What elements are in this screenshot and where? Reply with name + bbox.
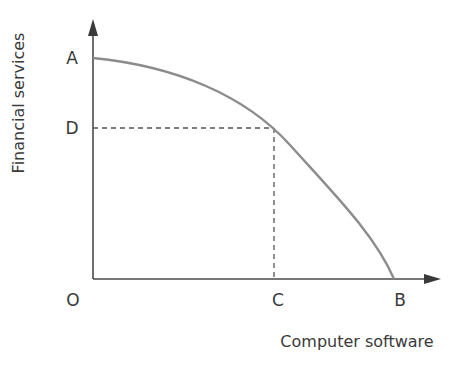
x-axis-arrow-icon bbox=[424, 274, 441, 284]
label-o: O bbox=[66, 290, 79, 310]
label-d: D bbox=[65, 118, 78, 138]
x-axis-title: Computer software bbox=[280, 332, 433, 351]
ppf-curve bbox=[93, 58, 394, 279]
y-axis-title: Financial services bbox=[9, 33, 28, 174]
label-b: B bbox=[394, 290, 406, 310]
ppf-diagram: A D O C B Financial services Computer so… bbox=[0, 0, 464, 372]
label-a: A bbox=[66, 48, 78, 68]
label-c: C bbox=[272, 290, 284, 310]
y-axis-arrow-icon bbox=[88, 19, 98, 36]
